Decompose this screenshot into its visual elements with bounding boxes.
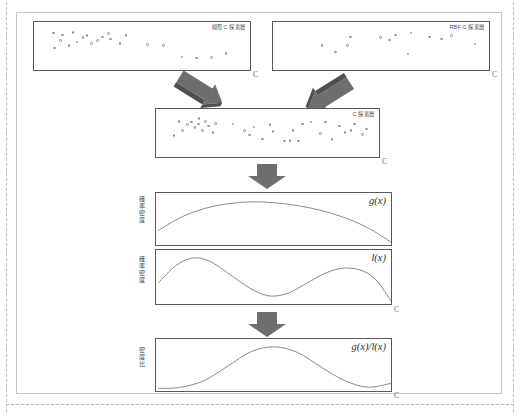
scatter-point xyxy=(59,39,62,42)
scatter-point xyxy=(146,43,149,46)
scatter-point xyxy=(349,36,352,39)
density-curve xyxy=(158,202,391,242)
scatter-point xyxy=(272,130,275,133)
axis-x-label-merged: C xyxy=(382,157,387,166)
scatter-point xyxy=(324,121,327,124)
scatter-point xyxy=(394,34,397,37)
scatter-point xyxy=(232,123,235,126)
scatter-point xyxy=(53,47,56,50)
scatter-point xyxy=(201,129,204,132)
scatter-point xyxy=(68,44,71,47)
diagram-canvas: 線形 C 探索層 C RBF C 探索層 C C 探索層 C xyxy=(0,0,520,417)
panel-merged-c-search-space: C 探索層 xyxy=(155,108,380,158)
panel-density-ratio: g(x)/l(x) xyxy=(155,338,392,392)
axis-y-label-gx: 確率密度 xyxy=(138,196,144,224)
scatter-point xyxy=(261,138,264,141)
scatter-point xyxy=(365,128,368,131)
scatter-point xyxy=(225,52,228,55)
scatter-point xyxy=(194,126,197,129)
down-arrow-to-ratio-icon xyxy=(247,312,287,338)
panel-gx-density: g(x) xyxy=(155,192,392,246)
scatter-point xyxy=(301,123,304,126)
scatter-point xyxy=(253,126,256,129)
scatter-point xyxy=(197,123,200,126)
scatter-rbf xyxy=(273,22,489,70)
scatter-point xyxy=(181,129,184,132)
scatter-point xyxy=(198,117,201,120)
axis-x-label-rbf: C xyxy=(492,70,497,79)
scatter-point xyxy=(186,123,189,126)
scatter-point xyxy=(344,131,347,134)
scatter-point xyxy=(283,140,286,143)
scatter-point xyxy=(207,125,210,128)
scatter-point xyxy=(195,57,198,60)
scatter-point xyxy=(321,44,324,47)
scatter-point xyxy=(289,139,292,142)
scatter-merged xyxy=(156,109,379,157)
scatter-point xyxy=(173,134,176,137)
merge-arrow-right-icon xyxy=(296,76,358,110)
scatter-point xyxy=(346,44,349,47)
scatter-point xyxy=(361,133,364,136)
scatter-point xyxy=(319,132,322,135)
axis-x-label-linear: C xyxy=(253,70,258,79)
scatter-point xyxy=(350,129,353,132)
scatter-point xyxy=(76,41,79,44)
scatter-point xyxy=(210,56,213,59)
scatter-point xyxy=(181,56,184,59)
scatter-point xyxy=(190,121,193,124)
curve-ratio xyxy=(156,339,392,392)
scatter-point xyxy=(292,129,295,132)
scatter-point xyxy=(248,134,251,137)
axis-y-label-ratio: 密度比 xyxy=(138,347,144,368)
scatter-point xyxy=(90,42,93,45)
scatter-point xyxy=(243,129,246,132)
scatter-point xyxy=(96,39,99,42)
scatter-point xyxy=(82,36,85,39)
scatter-point xyxy=(440,38,443,41)
scatter-point xyxy=(204,120,207,123)
scatter-point xyxy=(331,138,334,141)
scatter-point xyxy=(125,34,128,37)
scatter-point xyxy=(338,125,341,128)
scatter-linear xyxy=(34,22,250,70)
scatter-point xyxy=(119,42,122,45)
curve-gx xyxy=(156,193,392,246)
scatter-point xyxy=(101,36,104,39)
scatter-point xyxy=(107,32,110,35)
scatter-point xyxy=(428,36,431,39)
density-curve xyxy=(158,347,391,389)
scatter-point xyxy=(212,131,215,134)
axis-y-label-lx: 確率密度 xyxy=(138,256,144,284)
scatter-point xyxy=(269,123,272,126)
axis-x-label-lx: C xyxy=(394,305,399,314)
merge-arrow-left-icon xyxy=(168,76,230,110)
scatter-point xyxy=(334,51,337,54)
scatter-point xyxy=(353,123,356,126)
density-curve xyxy=(158,258,391,301)
scatter-point xyxy=(72,31,75,34)
panel-rbf-c-search-space: RBF C 探索層 xyxy=(272,21,490,71)
scatter-point xyxy=(474,43,477,46)
panel-lx-density: l(x) xyxy=(155,249,392,305)
scatter-point xyxy=(109,38,112,41)
scatter-point xyxy=(310,121,313,124)
scatter-point xyxy=(61,34,64,37)
scatter-point xyxy=(178,120,181,123)
scatter-point xyxy=(162,44,165,47)
scatter-point xyxy=(410,32,413,35)
scatter-point xyxy=(52,32,55,35)
scatter-point xyxy=(450,34,453,37)
down-arrow-to-densities-icon xyxy=(247,164,287,190)
scatter-point xyxy=(379,36,382,39)
scatter-point xyxy=(297,140,300,143)
scatter-point xyxy=(214,122,217,125)
panel-linear-c-search-space: 線形 C 探索層 xyxy=(33,21,251,71)
scatter-point xyxy=(86,34,89,37)
curve-lx xyxy=(156,250,392,305)
axis-x-label-ratio: C xyxy=(394,391,399,400)
scatter-point xyxy=(388,39,391,42)
scatter-point xyxy=(407,53,410,56)
page-dashed-border-bottom xyxy=(6,404,514,405)
